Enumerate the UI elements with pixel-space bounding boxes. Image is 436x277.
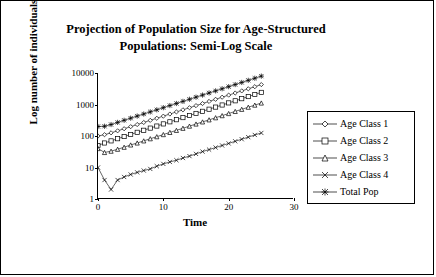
data-point-marker <box>142 120 146 124</box>
data-point-marker <box>207 99 211 103</box>
data-point-marker <box>252 76 257 81</box>
data-point-marker <box>239 80 244 85</box>
data-point-marker <box>122 134 126 138</box>
data-point-marker <box>122 145 126 149</box>
data-point-marker <box>155 124 159 128</box>
data-point-marker <box>148 137 152 141</box>
data-point-marker <box>116 147 120 151</box>
data-point-marker <box>214 105 218 109</box>
legend-label: Age Class 1 <box>338 118 388 129</box>
x-axis-tick-label: 10 <box>159 202 168 212</box>
y-axis-tick-mark <box>95 168 98 169</box>
data-point-marker <box>227 111 231 115</box>
data-point-marker <box>168 160 172 164</box>
series-line <box>98 103 261 152</box>
data-point-marker <box>240 137 244 141</box>
data-point-marker <box>187 97 192 102</box>
x-axis-tick-label: 20 <box>224 202 233 212</box>
data-point-marker <box>213 88 218 93</box>
legend-item-age-class-1[interactable]: Age Class 1 <box>312 115 410 132</box>
data-point-marker <box>141 111 146 116</box>
data-point-marker <box>174 158 178 162</box>
data-point-marker <box>227 93 231 97</box>
y-axis-label: Log number of individuals <box>26 0 40 142</box>
data-point-marker <box>194 122 198 126</box>
series-age-class-4 <box>98 131 263 192</box>
data-point-marker <box>109 131 113 135</box>
data-point-marker <box>129 143 133 147</box>
data-point-marker <box>116 137 120 141</box>
data-point-marker <box>174 118 178 122</box>
data-point-marker <box>259 131 263 135</box>
data-point-marker <box>174 128 178 132</box>
data-point-marker <box>181 126 185 130</box>
triangle-marker-icon <box>312 151 338 165</box>
data-point-marker <box>181 156 185 160</box>
data-point-marker <box>240 89 244 93</box>
data-point-marker <box>187 154 191 158</box>
data-point-marker <box>253 85 257 89</box>
data-point-marker <box>233 91 237 95</box>
data-point-marker <box>259 90 263 94</box>
x-axis-tick-mark <box>163 198 164 201</box>
legend-label: Age Class 2 <box>338 135 388 146</box>
data-point-marker <box>122 118 127 123</box>
legend-item-age-class-4[interactable]: Age Class 4 <box>312 166 410 183</box>
x-axis-tick-mark <box>98 198 99 201</box>
data-point-marker <box>98 124 101 129</box>
data-point-marker <box>233 139 237 143</box>
legend-item-age-class-2[interactable]: Age Class 2 <box>312 132 410 149</box>
y-axis-tick-label: 100 <box>81 131 95 141</box>
data-point-marker <box>220 143 224 147</box>
data-point-marker <box>207 118 211 122</box>
data-point-marker <box>246 135 250 139</box>
y-axis-tick-label: 1000 <box>76 100 94 110</box>
data-point-marker <box>220 95 224 99</box>
data-point-marker <box>116 178 120 182</box>
data-point-marker <box>135 113 140 118</box>
data-point-marker <box>174 110 178 114</box>
data-point-marker <box>135 170 139 174</box>
diamond-marker-icon <box>312 117 338 131</box>
x-axis-tick-mark <box>294 198 295 201</box>
y-axis-tick-mark <box>95 136 98 137</box>
data-point-marker <box>155 135 159 139</box>
data-point-marker <box>227 101 231 105</box>
data-point-marker <box>135 130 139 134</box>
data-point-marker <box>233 82 238 87</box>
data-point-marker <box>180 99 185 104</box>
legend-label: Total Pop <box>338 186 378 197</box>
data-point-marker <box>240 107 244 111</box>
data-point-marker <box>142 128 146 132</box>
data-point-marker <box>253 92 257 96</box>
data-point-marker <box>233 99 237 103</box>
data-point-marker <box>148 109 153 114</box>
data-point-marker <box>193 95 198 100</box>
data-point-marker <box>246 87 250 91</box>
data-point-marker <box>181 108 185 112</box>
data-point-marker <box>102 178 106 182</box>
legend-item-age-class-3[interactable]: Age Class 3 <box>312 149 410 166</box>
data-point-marker <box>109 187 113 191</box>
data-point-marker <box>214 116 218 120</box>
legend-item-total-pop[interactable]: Total Pop <box>312 183 410 200</box>
data-point-marker <box>233 109 237 113</box>
data-point-marker <box>194 111 198 115</box>
data-point-marker <box>102 133 106 137</box>
data-point-marker <box>129 172 133 176</box>
data-point-marker <box>161 114 165 118</box>
data-point-marker <box>214 97 218 101</box>
data-point-marker <box>142 139 146 143</box>
data-point-marker <box>116 129 120 133</box>
data-point-marker <box>220 114 224 118</box>
data-point-marker <box>155 116 159 120</box>
data-point-marker <box>148 167 152 171</box>
legend-label: Age Class 3 <box>338 152 388 163</box>
data-point-marker <box>200 120 204 124</box>
data-point-marker <box>206 90 211 95</box>
data-point-marker <box>167 103 172 108</box>
data-point-marker <box>181 116 185 120</box>
series-line <box>98 133 261 190</box>
data-point-marker <box>187 106 191 110</box>
data-point-marker <box>148 126 152 130</box>
